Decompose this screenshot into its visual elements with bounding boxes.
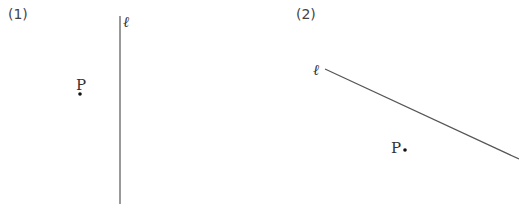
diagram-1-label: (1) xyxy=(8,7,28,21)
diagram-2-label: (2) xyxy=(296,7,316,21)
line-2-name: ℓ xyxy=(313,63,319,78)
point-1-name: P xyxy=(76,78,86,93)
diagram-canvas xyxy=(0,0,519,204)
point-p-2 xyxy=(403,148,407,152)
line-1-name: ℓ xyxy=(123,15,129,30)
line-l-2 xyxy=(325,69,519,159)
point-2-name: P xyxy=(391,141,401,156)
